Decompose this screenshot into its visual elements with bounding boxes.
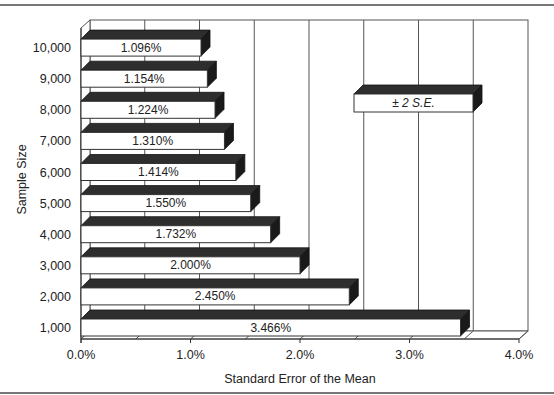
bar-top-face [81,279,358,288]
y-tick-label: 1,000 [40,321,71,335]
bar-value-label: 2.000% [170,258,211,272]
bar-top-face [81,123,233,132]
x-tick-label: 0.0% [67,348,96,362]
bar-value-label: 3.466% [250,321,291,335]
bar-top-face [81,92,224,101]
legend-label: ± 2 S.E. [392,96,435,110]
bar-top-face [81,30,210,39]
y-tick-label: 8,000 [40,103,71,117]
bar-top-face [81,186,260,195]
x-axis-title: Standard Error of the Mean [224,372,376,386]
y-tick-label: 2,000 [40,290,71,304]
y-tick-label: 10,000 [33,41,71,55]
bar-top-face [81,310,470,319]
bar-value-label: 1.154% [124,72,165,86]
bar-value-label: 1.224% [128,103,169,117]
x-tick-label: 3.0% [395,348,424,362]
y-tick-label: 4,000 [40,228,71,242]
y-tick-label: 6,000 [40,166,71,180]
bar-value-label: 1.310% [132,134,173,148]
legend-swatch-top [354,85,482,94]
y-tick-label: 3,000 [40,259,71,273]
bar-value-label: 1.414% [138,165,179,179]
bar-chart: 0.0%1.0%2.0%3.0%4.0%3.466%1,0002.450%2,0… [0,0,554,395]
bar-value-label: 2.450% [195,289,236,303]
y-tick-label: 5,000 [40,197,71,211]
bar-value-label: 1.732% [155,227,196,241]
bar-value-label: 1.550% [146,196,187,210]
x-tick-label: 4.0% [505,348,534,362]
bar-top-face [81,248,309,257]
bar-top-face [81,155,245,164]
y-tick-label: 7,000 [40,134,71,148]
bar-value-label: 1.096% [121,41,162,55]
x-tick-label: 2.0% [286,348,315,362]
bottom-rule [0,392,554,394]
bar-top-face [81,217,280,226]
bar-top-face [81,61,216,70]
x-tick-label: 1.0% [176,348,205,362]
y-tick-label: 9,000 [40,72,71,86]
y-axis-title: Sample Size [15,144,29,214]
